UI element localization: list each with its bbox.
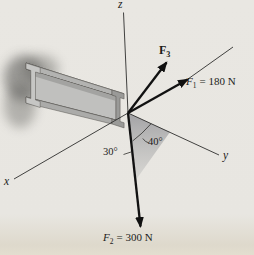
figure-canvas: z x y F3 F1= 180 N F2= 300 N 30° 40° — [0, 0, 254, 255]
force-f1-arrow — [128, 80, 188, 114]
force-f1-label: F1= 180 N — [186, 76, 236, 87]
angle-30-label: 30° — [103, 147, 118, 158]
force-f2-label: F2= 300 N — [103, 232, 153, 243]
force-f3-label: F3 — [159, 44, 170, 56]
i-beam — [26, 63, 124, 128]
z-axis-label: z — [118, 0, 122, 11]
y-axis-label: y — [223, 150, 228, 162]
x-axis-label: x — [4, 176, 9, 188]
diagram-svg — [0, 0, 254, 255]
angle-30-leader — [124, 152, 132, 155]
angle-40-label: 40° — [148, 137, 163, 148]
force-f3-arrow — [128, 63, 167, 114]
